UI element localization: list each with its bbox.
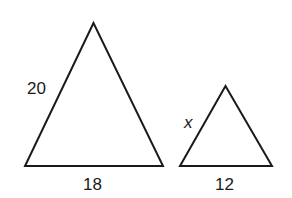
small-triangle-left-side-label: x [183, 113, 193, 132]
small-triangle-base-label: 12 [215, 175, 234, 194]
large-triangle-base-label: 18 [83, 175, 102, 194]
similar-triangles-diagram: 20 18 x 12 [0, 0, 292, 198]
small-triangle [180, 86, 272, 166]
large-triangle-left-side-label: 20 [27, 79, 46, 98]
